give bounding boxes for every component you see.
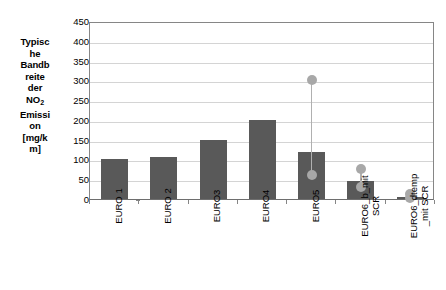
bar-column bbox=[336, 21, 385, 199]
x-axis-tick-mark bbox=[286, 200, 287, 204]
x-axis-category-label-line: EURO 1 bbox=[114, 188, 125, 223]
x-axis-tick-mark bbox=[138, 200, 139, 204]
bar-column bbox=[287, 21, 336, 199]
plot-area bbox=[89, 22, 434, 200]
x-axis-tick-mark bbox=[434, 200, 435, 204]
y-axis-tick-label: 0 bbox=[59, 195, 89, 205]
y-axis-tick-label: 450 bbox=[59, 17, 89, 27]
x-axis-category-label-text: EURO 2 bbox=[163, 188, 174, 223]
x-axis-tick-mark bbox=[188, 200, 189, 204]
y-axis-tick-labels: 450400350300250200150100500 bbox=[52, 0, 89, 290]
bar-column bbox=[90, 21, 139, 199]
x-axis-category-label-text: EURO5 bbox=[311, 190, 322, 223]
x-axis-category-label-text: EURO 1 bbox=[114, 188, 125, 223]
x-axis-category-label: EURO6_dtemp_mit SCR bbox=[385, 206, 434, 290]
x-axis-category-label: EURO 2 bbox=[138, 206, 187, 290]
x-axis-category-label: EURO3 bbox=[188, 206, 237, 290]
bar-column bbox=[139, 21, 188, 199]
x-axis-category-label-line: EURO5 bbox=[311, 190, 322, 223]
y-axis-tick-label: 250 bbox=[59, 96, 89, 106]
x-axis-category-label-line: EURO4 bbox=[261, 190, 272, 223]
x-axis-category-label-text: EURO3 bbox=[212, 190, 223, 223]
x-axis-category-label-text: EURO6_dtemp_mit SCR bbox=[409, 174, 430, 238]
y-axis-tick-label: 200 bbox=[59, 116, 89, 126]
x-axis-category-label-text: EURO6_b_mitSCR bbox=[360, 175, 381, 236]
range-marker-low bbox=[307, 170, 317, 180]
x-axis-category-labels: EURO 1EURO 2EURO3EURO4EURO5EURO6_b_mitSC… bbox=[89, 206, 434, 290]
y-axis-tick-label: 300 bbox=[59, 76, 89, 86]
range-marker-high bbox=[307, 75, 317, 85]
y-axis-tick-label: 50 bbox=[59, 175, 89, 185]
x-axis-category-label: EURO5 bbox=[286, 206, 335, 290]
x-axis-tick-mark bbox=[89, 200, 90, 204]
y-axis-tick-label: 350 bbox=[59, 57, 89, 67]
y-axis-tick-label: 400 bbox=[59, 37, 89, 47]
x-axis-category-label-line: _mit SCR bbox=[420, 174, 431, 238]
x-axis-tick-mark bbox=[385, 200, 386, 204]
y-axis-tick-label: 150 bbox=[59, 136, 89, 146]
y-axis-title-no2-base: NO bbox=[26, 94, 40, 105]
y-axis-title-no2-subscript: 2 bbox=[40, 99, 44, 106]
bar bbox=[249, 120, 276, 199]
bar-column bbox=[386, 21, 435, 199]
range-connector-line bbox=[311, 80, 313, 175]
x-axis-tick-mark bbox=[335, 200, 336, 204]
x-axis-category-label-line: EURO3 bbox=[212, 190, 223, 223]
x-axis-category-label: EURO4 bbox=[237, 206, 286, 290]
x-axis-category-label: EURO6_b_mitSCR bbox=[335, 206, 384, 290]
y-axis-tick-label: 100 bbox=[59, 155, 89, 165]
x-axis-category-label-line: SCR bbox=[371, 175, 382, 236]
x-axis-category-label-line: EURO 2 bbox=[163, 188, 174, 223]
x-axis-category-label: EURO 1 bbox=[89, 206, 138, 290]
chart-container: Typisc he Bandb reite der NO2 Emissi on … bbox=[0, 0, 446, 290]
range-marker-high bbox=[356, 164, 366, 174]
bar-column bbox=[189, 21, 238, 199]
bar-column bbox=[238, 21, 287, 199]
x-axis-category-label-text: EURO4 bbox=[261, 190, 272, 223]
x-axis-tick-mark bbox=[237, 200, 238, 204]
